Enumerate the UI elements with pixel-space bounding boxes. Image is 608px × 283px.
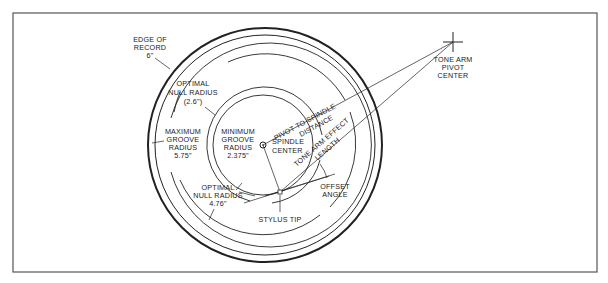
label-maximum-groove: MAXIMUM GROOVE RADIUS 5.75"	[165, 127, 201, 160]
label-edge-of-record: EDGE OF RECORD 6"	[133, 35, 167, 60]
svg-text:2.375": 2.375"	[227, 151, 249, 160]
svg-text:ANGLE: ANGLE	[322, 190, 347, 199]
label-optimal-null-2-6: OPTIMAL NULL RADIUS (2.6")	[168, 79, 217, 106]
svg-text:5.75": 5.75"	[174, 151, 192, 160]
diagram-frame	[13, 13, 597, 272]
label-minimum-groove: MINIMUM GROOVE RADIUS 2.375"	[221, 127, 255, 160]
null-2-6-leader	[205, 107, 215, 115]
svg-text:OPTIMAL: OPTIMAL	[177, 79, 210, 88]
label-offset-angle: OFFSET ANGLE	[320, 182, 350, 199]
svg-text:NULL RADIUS: NULL RADIUS	[168, 88, 217, 97]
label-tone-arm-pivot: TONE ARM PIVOT CENTER	[433, 55, 472, 80]
svg-text:(2.6"): (2.6")	[184, 97, 203, 106]
svg-text:CENTER: CENTER	[272, 146, 303, 155]
svg-text:6": 6"	[147, 51, 154, 60]
svg-text:CENTER: CENTER	[438, 71, 469, 80]
stylus-tip-icon	[278, 190, 282, 194]
max-groove-leader	[152, 141, 164, 143]
offset-angle-arc	[320, 164, 327, 178]
svg-text:4.76": 4.76"	[209, 199, 227, 208]
tone-arm-diagram: EDGE OF RECORD 6" OPTIMAL NULL RADIUS (2…	[0, 0, 608, 283]
edge-leader	[155, 58, 170, 69]
label-stylus-tip: STYLUS TIP	[258, 215, 301, 224]
